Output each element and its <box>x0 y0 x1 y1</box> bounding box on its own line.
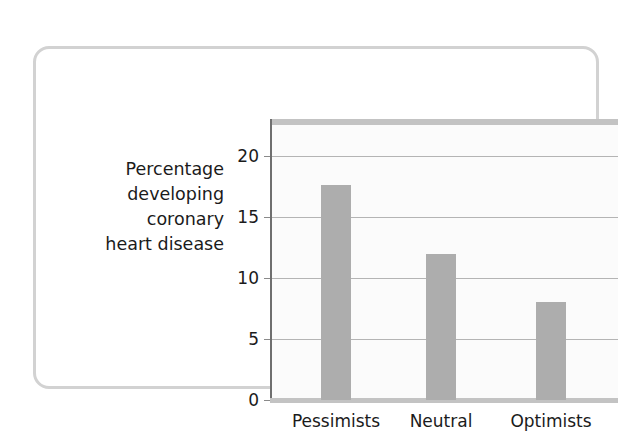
figure-card: Percentage developing coronary heart dis… <box>33 46 599 389</box>
y-tick-label-0: 0 <box>248 390 259 410</box>
bar-pessimists <box>321 185 351 400</box>
bar-optimists <box>536 302 566 400</box>
x-label-pessimists: Pessimists <box>292 411 380 431</box>
y-tick-mark-0 <box>264 400 270 401</box>
gridline-20 <box>272 156 618 157</box>
plot-area: 20 15 10 5 0 Pessimists Neutral Optimist… <box>270 119 618 401</box>
y-tick-label-15: 15 <box>237 207 259 227</box>
y-tick-label-10: 10 <box>237 268 259 288</box>
y-tick-mark-10 <box>264 278 270 279</box>
y-axis-line <box>270 119 272 401</box>
y-tick-label-5: 5 <box>248 329 259 349</box>
x-label-neutral: Neutral <box>410 411 473 431</box>
y-tick-mark-20 <box>264 156 270 157</box>
y-tick-mark-15 <box>264 217 270 218</box>
y-tick-mark-5 <box>264 339 270 340</box>
y-tick-label-20: 20 <box>237 146 259 166</box>
x-label-optimists: Optimists <box>510 411 591 431</box>
bar-neutral <box>426 254 456 400</box>
plot-top-band <box>270 119 618 125</box>
y-axis-title: Percentage developing coronary heart dis… <box>76 157 224 257</box>
